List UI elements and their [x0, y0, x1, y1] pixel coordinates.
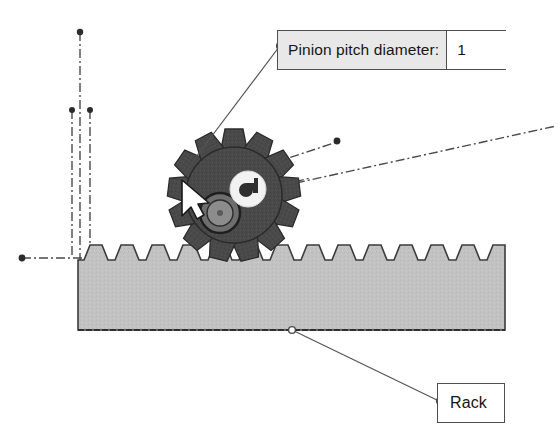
- endpoint-dot-top: [77, 29, 83, 35]
- diagram-canvas: Pinion pitch diameter: 1 Rack: [0, 0, 558, 440]
- construction-line-gear-right: [296, 126, 556, 183]
- pinion-hub-bore: [217, 210, 223, 216]
- endpoint-dot-right-flank: [87, 107, 93, 113]
- leader-anchor-rack-edge: [289, 327, 296, 334]
- endpoint-dot-horizontal: [19, 255, 26, 262]
- rack-callout[interactable]: Rack: [437, 383, 505, 423]
- pinion-pitch-diameter-callout[interactable]: Pinion pitch diameter: 1: [277, 30, 506, 70]
- pinion-pitch-diameter-label: Pinion pitch diameter:: [278, 31, 446, 69]
- leader-line-rack: [292, 330, 439, 401]
- rack-body: [78, 245, 505, 330]
- pinion-pitch-diameter-value[interactable]: 1: [446, 31, 507, 69]
- endpoint-dot-left-flank: [69, 107, 75, 113]
- leader-anchors: [277, 43, 444, 405]
- rack-part: [78, 245, 505, 330]
- endpoint-dot-gear-upper: [334, 138, 341, 145]
- rack-label: Rack: [438, 384, 495, 422]
